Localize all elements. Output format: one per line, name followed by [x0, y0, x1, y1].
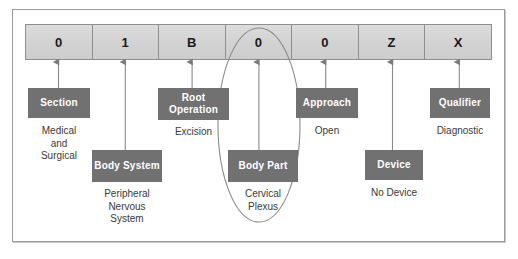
- code-strip: 0 1 B 0 0 Z X: [25, 24, 492, 60]
- caption-body-part: Cervical Plexus: [228, 188, 298, 213]
- caption-approach: Open: [296, 125, 358, 138]
- caption-root-operation: Excision: [158, 126, 229, 139]
- label-box-root-operation[interactable]: Root Operation: [158, 88, 229, 120]
- label-box-body-system[interactable]: Body System: [92, 150, 162, 182]
- caption-device: No Device: [359, 187, 429, 200]
- code-cell-4[interactable]: 0: [226, 25, 293, 59]
- caption-qualifier: Diagnostic: [424, 125, 496, 138]
- code-cell-2[interactable]: 1: [93, 25, 160, 59]
- label-box-qualifier[interactable]: Qualifier: [430, 88, 490, 118]
- diagram-stage: 0 1 B 0 0 Z X Section Medical and Surgic…: [0, 0, 518, 259]
- label-box-device[interactable]: Device: [365, 150, 423, 180]
- caption-body-system: Peripheral Nervous System: [88, 188, 166, 226]
- code-cell-3[interactable]: B: [159, 25, 226, 59]
- code-cell-5[interactable]: 0: [292, 25, 359, 59]
- label-box-body-part[interactable]: Body Part: [228, 150, 298, 182]
- label-box-section[interactable]: Section: [28, 88, 90, 118]
- code-cell-6[interactable]: Z: [359, 25, 426, 59]
- label-box-approach[interactable]: Approach: [296, 88, 358, 118]
- code-cell-7[interactable]: X: [425, 25, 491, 59]
- caption-section: Medical and Surgical: [21, 125, 97, 163]
- code-cell-1[interactable]: 0: [26, 25, 93, 59]
